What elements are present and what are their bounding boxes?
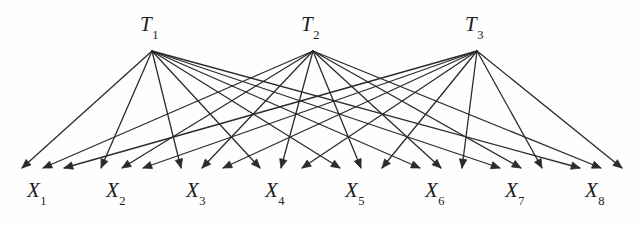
edge-t3-x5 [382, 51, 477, 168]
arrowhead-t1-x8 [571, 162, 580, 169]
arrowhead-t3-x8 [613, 160, 622, 168]
label-base: X [585, 178, 598, 202]
label-base: T [465, 12, 477, 36]
edge-t1-x8 [152, 51, 580, 168]
label-base: T [140, 12, 152, 36]
arrowhead-t3-x6 [459, 159, 466, 168]
edge-t2-x8 [313, 51, 601, 168]
label-base: X [265, 178, 278, 202]
edge-t2-x6 [313, 51, 441, 168]
arrowhead-layer [22, 159, 622, 170]
observed-node-label-x8: X8 [585, 180, 604, 205]
arrowhead-t2-x5 [354, 159, 361, 168]
label-subscript: 8 [598, 194, 604, 208]
arrowhead-t1-x3 [175, 159, 182, 168]
edge-t1-x1 [22, 51, 152, 168]
arrowhead-t2-x8 [592, 161, 601, 168]
label-base: T [301, 12, 313, 36]
label-subscript: 5 [358, 194, 364, 208]
arrowhead-t1-x5 [331, 160, 340, 168]
arrowhead-t2-x1 [43, 161, 52, 168]
label-base: X [505, 178, 518, 202]
arrowhead-t2-x7 [512, 160, 521, 168]
edge-t1-x7 [152, 51, 500, 168]
label-subscript: 3 [199, 194, 205, 208]
edge-t3-x3 [223, 51, 477, 168]
label-subscript: 4 [278, 194, 284, 208]
latent-node-label-t3: T3 [465, 14, 483, 39]
arrowhead-t3-x1 [64, 162, 73, 169]
observed-node-label-x1: X1 [27, 180, 46, 205]
arrowhead-t3-x3 [223, 161, 232, 168]
arrowhead-t3-x7 [535, 159, 542, 168]
arrowhead-t3-x2 [143, 162, 152, 169]
label-subscript: 6 [438, 194, 444, 208]
observed-node-label-x3: X3 [186, 180, 205, 205]
diagram-canvas: T1T2T3X1X2X3X4X5X6X7X8 [0, 0, 641, 228]
edge-t3-x8 [477, 51, 622, 168]
latent-node-label-t1: T1 [140, 14, 158, 39]
label-base: X [425, 178, 438, 202]
arrowhead-t1-x6 [411, 161, 420, 168]
label-base: X [106, 178, 119, 202]
edge-t3-x4 [302, 51, 477, 168]
arrowhead-t2-x4 [280, 159, 287, 168]
observed-node-label-x4: X4 [265, 180, 284, 205]
edge-t2-x5 [313, 51, 361, 168]
label-subscript: 1 [152, 28, 158, 42]
label-subscript: 2 [313, 28, 319, 42]
label-subscript: 3 [477, 28, 483, 42]
observed-node-label-x5: X5 [345, 180, 364, 205]
arrowhead-t1-x2 [101, 159, 108, 168]
label-base: X [345, 178, 358, 202]
latent-node-label-t2: T2 [301, 14, 319, 39]
label-subscript: 2 [119, 194, 125, 208]
arrowhead-t2-x2 [122, 160, 131, 168]
observed-node-label-x7: X7 [505, 180, 524, 205]
label-subscript: 1 [40, 194, 46, 208]
observed-node-label-x2: X2 [106, 180, 125, 205]
edge-t3-x7 [477, 51, 542, 168]
bipartite-graph [0, 0, 641, 228]
label-subscript: 7 [518, 194, 524, 208]
arrowhead-t1-x7 [491, 162, 500, 169]
arrowhead-t3-x4 [302, 160, 311, 168]
label-base: X [27, 178, 40, 202]
edge-t3-x6 [462, 51, 477, 168]
observed-node-label-x6: X6 [425, 180, 444, 205]
edge-layer [22, 51, 622, 168]
label-base: X [186, 178, 199, 202]
